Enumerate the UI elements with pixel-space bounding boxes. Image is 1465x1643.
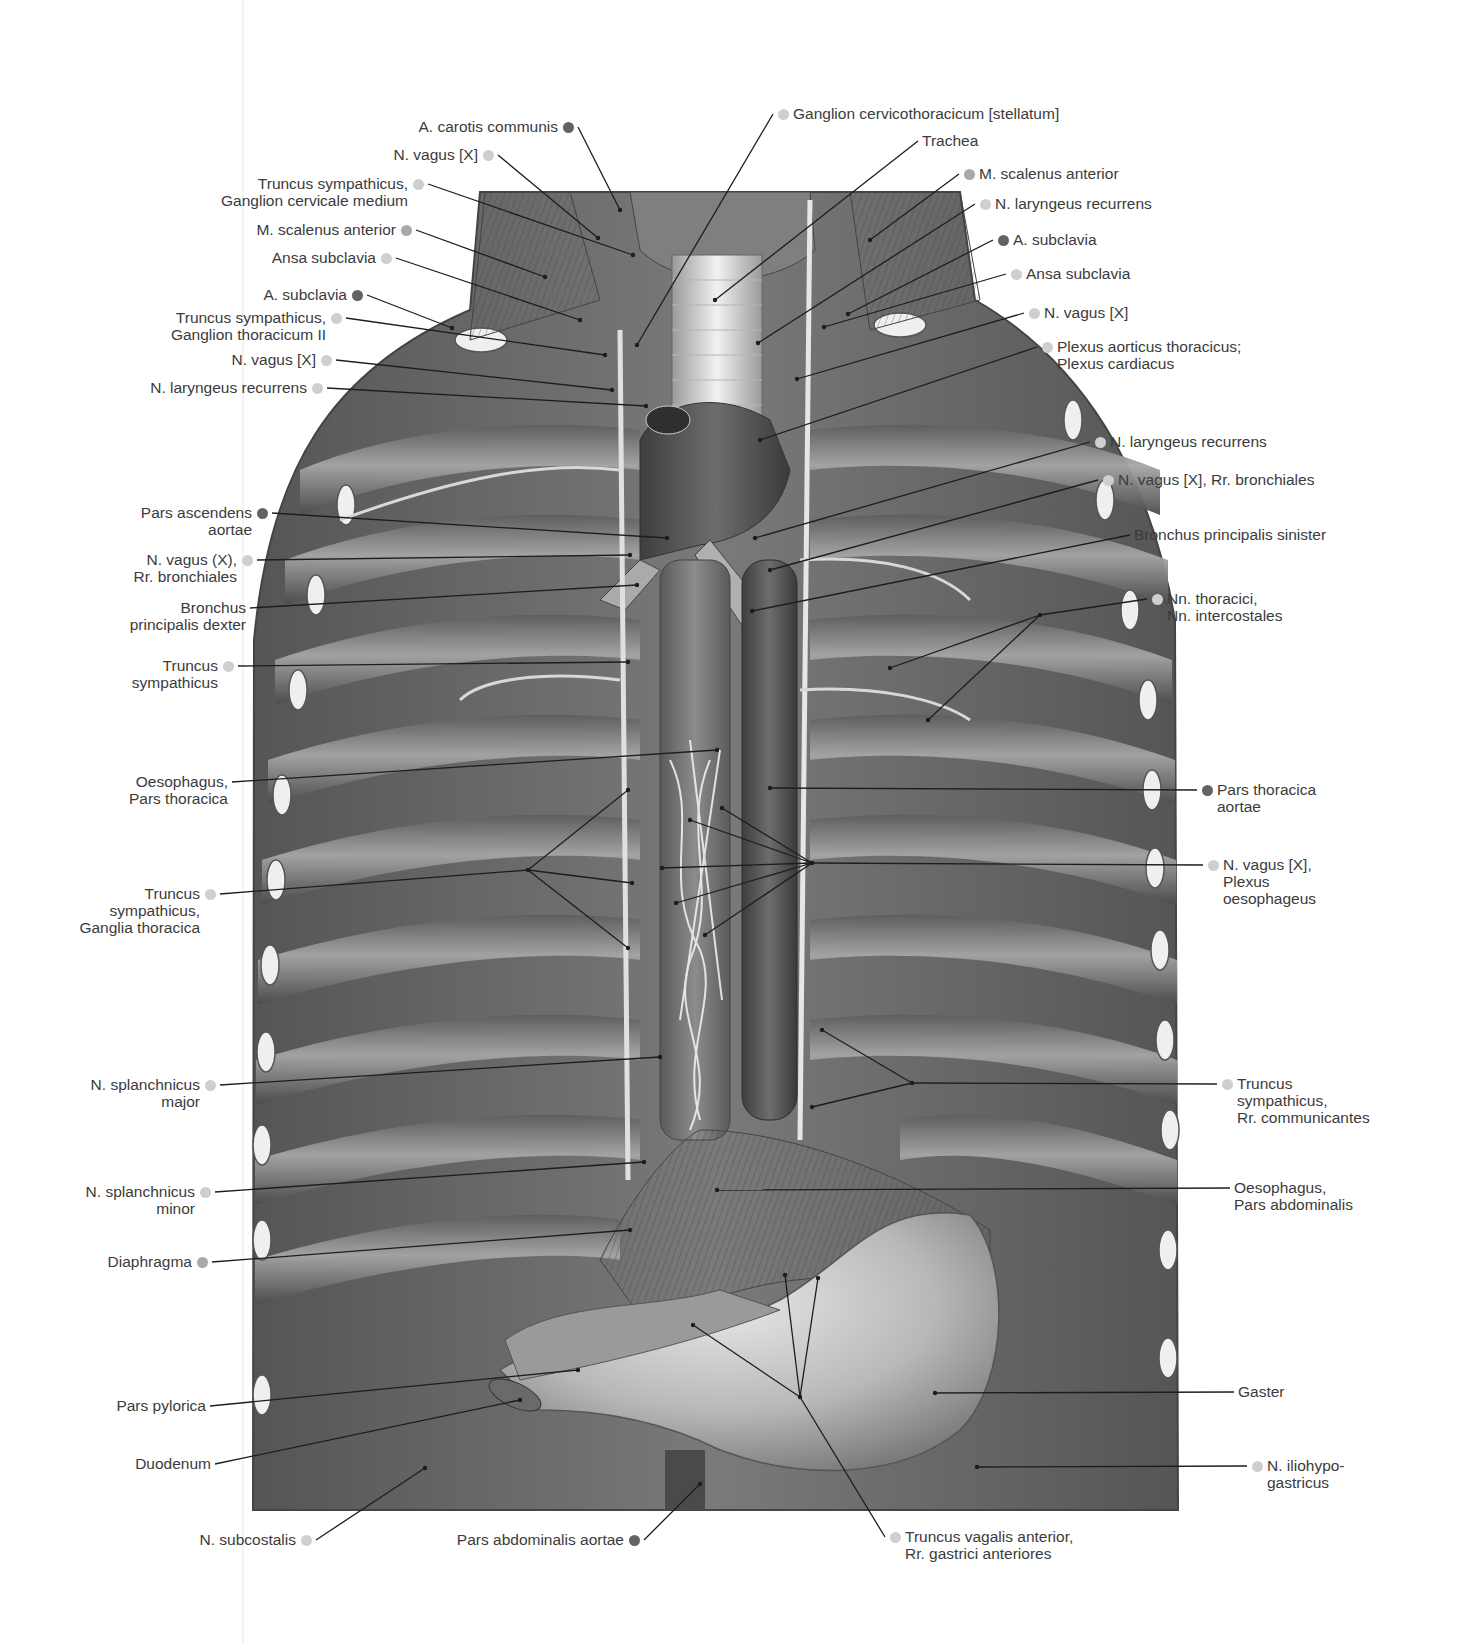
legend-dot-mid [964, 169, 975, 180]
label-text-line: Pars thoracica [129, 790, 228, 807]
label-text-line: N. vagus [X] [394, 146, 478, 163]
label-n-vagus-x-rr-bronchiales: N. vagus (X),Rr. bronchiales [134, 551, 237, 585]
leader-endpoint [933, 1391, 937, 1395]
leader-line [760, 347, 1037, 440]
leader-endpoint [674, 901, 678, 905]
leader-line [755, 442, 1090, 538]
label-text-line: N. vagus (X), [134, 551, 237, 568]
legend-dot-light [331, 313, 342, 324]
label-text-line: N. laryngeus recurrens [150, 379, 307, 396]
label-text-line: M. scalenus anterior [256, 221, 396, 238]
label-truncus-sympathicus: Truncussympathicus [132, 657, 218, 691]
label-text-line: sympathicus [132, 674, 218, 691]
legend-dot-light [312, 383, 323, 394]
label-duodenum: Duodenum [135, 1455, 211, 1472]
leader-endpoint [596, 236, 600, 240]
label-text-line: Ganglion cervicothoracicum [stellatum] [793, 105, 1059, 122]
label-a-carotis-communis: A. carotis communis [418, 118, 558, 135]
label-truncus-sympathicus-rr-communicantes: Truncussympathicus,Rr. communicantes [1237, 1075, 1370, 1126]
leader-endpoint [688, 818, 692, 822]
leader-line [800, 1278, 818, 1397]
label-text-line: Pars abdominalis aortae [457, 1531, 624, 1548]
leader-endpoint [626, 946, 630, 950]
legend-dot-light [1208, 860, 1219, 871]
leader-endpoint [713, 298, 717, 302]
legend-dot-dark [629, 1535, 640, 1546]
label-text-line: N. vagus [X], [1223, 856, 1316, 873]
legend-dot-light [1152, 594, 1163, 605]
label-truncus-sympathicus-ganglion-cervicale-medium: Truncus sympathicus,Ganglion cervicale m… [221, 175, 408, 209]
leader-endpoint [578, 318, 582, 322]
label-text-line: N. vagus [X] [232, 351, 316, 368]
label-nn-thoracici-nn-intercostales: Nn. thoracici,Nn. intercostales [1167, 590, 1282, 624]
leader-line [800, 1397, 885, 1537]
legend-dot-light [321, 355, 332, 366]
label-text-line: Ansa subclavia [1026, 265, 1130, 282]
label-text-line: N. vagus [X] [1044, 304, 1128, 321]
leader-endpoint [758, 438, 762, 442]
leader-line [528, 870, 632, 883]
leader-endpoint [715, 748, 719, 752]
label-n-subcostalis: N. subcostalis [200, 1531, 296, 1548]
label-text-line: aortae [141, 521, 252, 538]
label-text-line: Truncus sympathicus, [221, 175, 408, 192]
leader-endpoint [626, 660, 630, 664]
label-n-vagus-x-plexus-oesophageus: N. vagus [X],Plexusoesophageus [1223, 856, 1316, 907]
leader-endpoint [631, 253, 635, 257]
leader-endpoint [768, 568, 772, 572]
label-truncus-vagalis-anterior-rr-gastrici-anteriores: Truncus vagalis anterior,Rr. gastrici an… [905, 1528, 1073, 1562]
leader-line [210, 1370, 578, 1406]
leader-line [238, 662, 628, 666]
label-n-laryngeus-recurrens: N. laryngeus recurrens [1110, 433, 1267, 450]
label-text-line: A. carotis communis [418, 118, 558, 135]
label-oesophagus-pars-abdominalis: Oesophagus,Pars abdominalis [1234, 1179, 1353, 1213]
legend-dot-light [1011, 269, 1022, 280]
legend-dot-light [778, 109, 789, 120]
label-text-line: N. iliohypo- [1267, 1457, 1345, 1474]
leader-line [812, 863, 1203, 865]
legend-dot-light [890, 1532, 901, 1543]
leader-line [272, 513, 667, 538]
leader-endpoint [610, 388, 614, 392]
leader-endpoint [644, 404, 648, 408]
label-ganglion-cervicothoracicum-stellatum: Ganglion cervicothoracicum [stellatum] [793, 105, 1059, 122]
label-text-line: Rr. gastrici anteriores [905, 1545, 1073, 1562]
leader-line [785, 1275, 800, 1397]
legend-dot-light [1095, 437, 1106, 448]
label-text-line: Diaphragma [108, 1253, 192, 1270]
leader-endpoint [618, 208, 622, 212]
label-gaster: Gaster [1238, 1383, 1285, 1400]
leader-line [662, 863, 812, 868]
label-n-vagus-x: N. vagus [X] [232, 351, 316, 368]
legend-dot-dark [998, 235, 1009, 246]
label-text-line: Gaster [1238, 1383, 1285, 1400]
legend-dot-mid [197, 1257, 208, 1268]
label-text-line: Pars thoracica [1217, 781, 1316, 798]
label-text-line: A. subclavia [1013, 231, 1097, 248]
leader-endpoint [698, 1482, 702, 1486]
leader-line [912, 1083, 1217, 1084]
leader-line [797, 313, 1024, 379]
leader-endpoint [543, 275, 547, 279]
leader-line [717, 1188, 1230, 1190]
legend-dot-light [980, 199, 991, 210]
legend-dot-light [223, 661, 234, 672]
legend-dot-light [413, 179, 424, 190]
leader-endpoint [783, 1273, 787, 1277]
label-n-laryngeus-recurrens: N. laryngeus recurrens [995, 195, 1152, 212]
label-text-line: Bronchus [130, 599, 246, 616]
label-text-line: Ansa subclavia [272, 249, 376, 266]
label-text-line: M. scalenus anterior [979, 165, 1119, 182]
label-text-line: N. laryngeus recurrens [1110, 433, 1267, 450]
legend-dot-light [1222, 1079, 1233, 1090]
leader-endpoint [810, 1105, 814, 1109]
label-trachea: Trachea [922, 132, 978, 149]
leader-endpoint [888, 666, 892, 670]
label-text-line: N. vagus [X], Rr. bronchiales [1118, 471, 1314, 488]
leader-line [676, 863, 812, 903]
label-n-iliohypo-gastricus: N. iliohypo-gastricus [1267, 1457, 1345, 1491]
leader-endpoint [750, 609, 754, 613]
legend-dot-light [1042, 342, 1053, 353]
legend-dot-light [200, 1187, 211, 1198]
label-truncus-sympathicus-ganglia-thoracica: Truncussympathicus,Ganglia thoracica [79, 885, 200, 936]
